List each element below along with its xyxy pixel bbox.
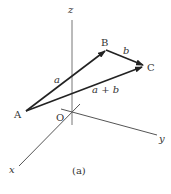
vector-a-plus-b: [26, 67, 142, 111]
vectors: [26, 50, 143, 111]
x-axis: [19, 104, 80, 166]
point-c-label: C: [147, 62, 155, 73]
point-a-label: A: [13, 109, 22, 120]
coordinate-axes: [19, 20, 157, 166]
vector-b-label: b: [123, 45, 129, 56]
y-axis-label: y: [158, 133, 165, 144]
figure-caption: (a): [72, 165, 86, 176]
vector-a: [26, 51, 105, 111]
x-axis-label: x: [9, 164, 15, 175]
z-axis-label: z: [67, 4, 74, 15]
point-b-label: B: [101, 37, 108, 48]
y-axis: [61, 109, 157, 135]
origin-label: O: [56, 112, 64, 123]
vector-addition-diagram: z B b C a a + b A O y x (a): [0, 0, 171, 194]
vector-a-label: a: [54, 74, 60, 85]
vector-a-plus-b-label: a + b: [92, 84, 119, 95]
